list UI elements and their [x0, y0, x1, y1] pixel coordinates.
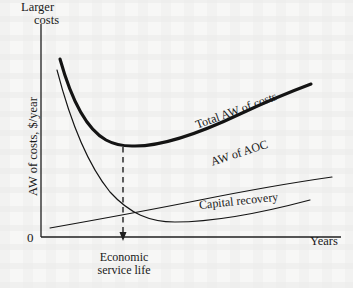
chart-canvas — [0, 0, 353, 288]
x-axis-title: Years — [310, 235, 338, 248]
larger-costs-line1: Larger — [21, 0, 54, 14]
axis-note-larger-costs: Larger costs — [21, 1, 59, 27]
economic-service-life-label: Economic service life — [78, 251, 170, 276]
esl-line1: Economic — [100, 250, 149, 264]
esl-line2: service life — [78, 264, 170, 277]
curve-capital-recovery — [50, 177, 332, 228]
y-axis-title: AW of costs, $/year — [27, 72, 40, 222]
origin-label: 0 — [27, 231, 34, 245]
economic-service-life-chart: Larger costs AW of costs, $/year 0 Years… — [0, 0, 353, 288]
larger-costs-line2: costs — [21, 14, 59, 27]
